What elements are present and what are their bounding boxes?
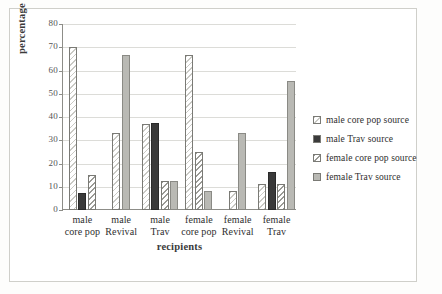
bar: [142, 124, 150, 210]
bar: [268, 172, 276, 210]
bar: [122, 55, 130, 210]
bar: [88, 175, 96, 210]
y-axis-tick-label: 80: [32, 19, 58, 28]
legend-swatch-icon: [313, 154, 321, 162]
bar: [204, 191, 212, 210]
bar-group: [218, 24, 257, 210]
legend-item: male core pop source: [313, 110, 417, 129]
bar: [185, 55, 193, 210]
bar-group: [141, 24, 180, 210]
legend-item: female core pop source: [313, 148, 417, 167]
category-label-line: female: [249, 214, 304, 226]
x-axis-category-label: femaleTrav: [249, 214, 304, 237]
bar: [170, 181, 178, 210]
category-label-line: Trav: [249, 226, 304, 238]
y-axis-tick-label: 30: [32, 135, 58, 144]
bar: [258, 184, 266, 210]
bar: [195, 152, 203, 210]
y-axis-tick-label: 20: [32, 159, 58, 168]
bar-group: [63, 24, 102, 210]
legend-item-label: female core pop source: [326, 153, 417, 163]
bar: [112, 133, 120, 210]
bar-chart-figure: percentage of pairs 01020304050607080 ma…: [0, 0, 442, 294]
legend-item-label: female Trav source: [326, 172, 401, 182]
legend-item: male Trav source: [313, 129, 417, 148]
legend-item-label: male Trav source: [326, 134, 393, 144]
bar: [161, 181, 169, 210]
legend-swatch-icon: [313, 116, 321, 124]
bar-group: [102, 24, 141, 210]
bar: [238, 133, 246, 210]
legend-swatch-icon: [313, 135, 321, 143]
y-axis-tick-label: 70: [32, 42, 58, 51]
legend-item-label: male core pop source: [326, 115, 409, 125]
bar-group: [257, 24, 296, 210]
plot-area: [63, 24, 296, 210]
bar: [229, 191, 237, 210]
x-axis-title: recipients: [63, 241, 296, 252]
y-axis-tick-label: 10: [32, 182, 58, 191]
y-axis-tick-label: 50: [32, 89, 58, 98]
bar: [69, 47, 77, 210]
legend-swatch-icon: [313, 173, 321, 181]
y-axis-tick-label: 60: [32, 66, 58, 75]
bar: [151, 123, 159, 210]
bar: [277, 184, 285, 210]
y-axis-tick-label: 40: [32, 112, 58, 121]
y-axis-title: percentage of pairs: [16, 0, 27, 54]
bar: [78, 193, 86, 210]
y-axis-tick-label: 0: [32, 205, 58, 214]
bar: [287, 81, 295, 210]
chart-legend: male core pop sourcemale Trav sourcefema…: [313, 110, 417, 186]
bar-group: [180, 24, 219, 210]
legend-item: female Trav source: [313, 167, 417, 186]
